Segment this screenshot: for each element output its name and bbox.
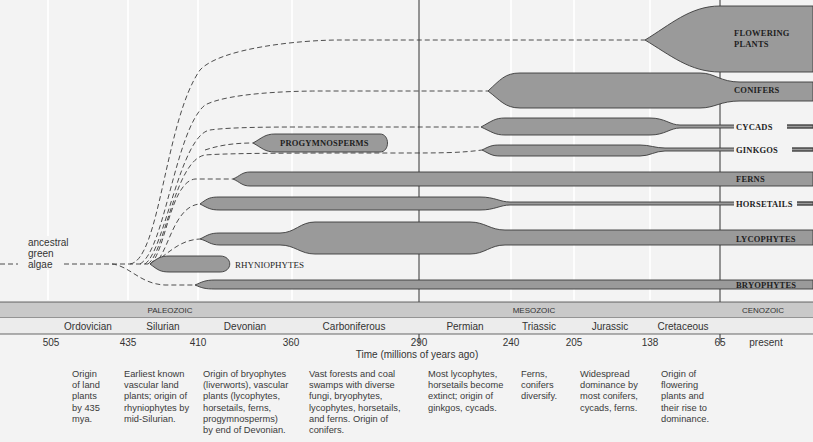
period-ordovician: Ordovician bbox=[64, 321, 112, 332]
desc-line: lycophytes, horsetails, bbox=[309, 403, 400, 414]
lineage-shapes bbox=[150, 6, 813, 289]
label-flowering-plants-1: FLOWERING bbox=[734, 28, 790, 38]
era-paleozoic: PALEOZOIC bbox=[147, 306, 192, 315]
lineage-flowering-plants bbox=[645, 6, 813, 72]
desc-line: plants (lycophytes, bbox=[203, 391, 288, 402]
tick-360: 360 bbox=[283, 337, 300, 348]
desc-line: Origin of bryophytes bbox=[203, 369, 288, 380]
desc-line: of land bbox=[72, 380, 100, 391]
tick-290: 290 bbox=[411, 337, 428, 348]
desc-line: Origin of bbox=[661, 369, 709, 380]
description-devonian: Origin of bryophytes (liverworts), vascu… bbox=[203, 369, 288, 436]
tick-present: present bbox=[749, 337, 783, 348]
period-triassic: Triassic bbox=[522, 321, 556, 332]
desc-line: cycads, ferns. bbox=[580, 403, 638, 414]
description-origin-land-plants: Origin of land plants by 435 mya. bbox=[72, 369, 100, 425]
period-carboniferous: Carboniferous bbox=[323, 321, 386, 332]
period-permian: Permian bbox=[446, 321, 483, 332]
label-ferns: FERNS bbox=[736, 174, 765, 184]
tick-410: 410 bbox=[190, 337, 207, 348]
label-horsetails: HORSETAILS bbox=[736, 199, 793, 209]
lineage-rhyniophytes bbox=[150, 256, 230, 272]
desc-line: Most lycophytes, bbox=[428, 369, 503, 380]
label-rhyniophytes: RHYNIOPHYTES bbox=[235, 260, 304, 270]
axis-label: Time (millions of years ago) bbox=[356, 349, 478, 360]
desc-line: conifers bbox=[521, 380, 557, 391]
label-conifers: CONIFERS bbox=[734, 85, 780, 95]
label-lycophytes: LYCOPHYTES bbox=[736, 234, 796, 244]
desc-line: flowering bbox=[661, 380, 709, 391]
era-band: PALEOZOIC MESOZOIC CENOZOIC bbox=[0, 302, 813, 318]
description-cretaceous: Origin of flowering plants and their ris… bbox=[661, 369, 709, 425]
desc-line: plants and bbox=[661, 391, 709, 402]
description-carboniferous: Vast forests and coal swamps with divers… bbox=[309, 369, 400, 436]
ancestor-label-2: green bbox=[28, 248, 54, 259]
desc-line: horsetails become bbox=[428, 380, 503, 391]
desc-line: dominance. bbox=[661, 414, 709, 425]
label-progymnosperms: PROGYMNOSPERMS bbox=[280, 138, 369, 148]
era-cenozoic: CENOZOIC bbox=[742, 306, 784, 315]
desc-line: their rise to bbox=[661, 403, 709, 414]
desc-line: Earliest known bbox=[124, 369, 189, 380]
desc-line: progymnosperms) bbox=[203, 414, 288, 425]
lineage-bryophytes bbox=[195, 280, 813, 289]
desc-line: conifers. bbox=[309, 425, 400, 436]
description-jurassic: Widespread dominance by most conifers, c… bbox=[580, 369, 638, 414]
desc-line: by end of Devonian. bbox=[203, 425, 288, 436]
desc-line: most conifers, bbox=[580, 391, 638, 402]
period-cretaceous: Cretaceous bbox=[657, 321, 708, 332]
label-extension-lines bbox=[787, 125, 813, 205]
desc-line: Vast forests and coal bbox=[309, 369, 400, 380]
desc-line: Ferns, bbox=[521, 369, 557, 380]
desc-line: extinct; origin of bbox=[428, 391, 503, 402]
desc-line: Origin bbox=[72, 369, 100, 380]
label-flowering-plants-2: PLANTS bbox=[734, 39, 769, 49]
desc-line: (liverworts), vascular bbox=[203, 380, 288, 391]
label-cycads: CYCADS bbox=[736, 122, 773, 132]
lineage-horsetails bbox=[200, 197, 813, 210]
label-bryophytes: BRYOPHYTES bbox=[736, 280, 796, 290]
desc-line: vascular land bbox=[124, 380, 189, 391]
tick-65: 65 bbox=[714, 337, 726, 348]
desc-line: Widespread bbox=[580, 369, 638, 380]
tick-505: 505 bbox=[43, 337, 60, 348]
time-axis: 505 435 410 360 290 240 205 138 65 prese… bbox=[43, 337, 783, 360]
period-devonian: Devonian bbox=[224, 321, 266, 332]
desc-line: mya. bbox=[72, 414, 100, 425]
era-mesozoic: MESOZOIC bbox=[513, 306, 556, 315]
desc-line: horsetails, ferns, bbox=[203, 403, 288, 414]
desc-line: and ferns. Origin of bbox=[309, 414, 400, 425]
tick-205: 205 bbox=[566, 337, 583, 348]
period-jurassic: Jurassic bbox=[592, 321, 629, 332]
description-silurian: Earliest known vascular land plants; ori… bbox=[124, 369, 189, 425]
desc-line: rhyniophytes by bbox=[124, 403, 189, 414]
period-band: Ordovician Silurian Devonian Carbonifero… bbox=[0, 318, 813, 334]
description-permian: Most lycophytes, horsetails become extin… bbox=[428, 369, 503, 414]
ancestor-label-3: algae bbox=[28, 259, 53, 270]
desc-line: by 435 bbox=[72, 403, 100, 414]
desc-line: fungi, bryophytes, bbox=[309, 391, 400, 402]
desc-line: diversify. bbox=[521, 391, 557, 402]
ancestor-label-1: ancestral bbox=[28, 237, 69, 248]
period-silurian: Silurian bbox=[146, 321, 179, 332]
desc-line: swamps with diverse bbox=[309, 380, 400, 391]
tick-240: 240 bbox=[503, 337, 520, 348]
desc-line: plants; origin of bbox=[124, 391, 189, 402]
lineage-ferns bbox=[233, 172, 813, 186]
tick-435: 435 bbox=[120, 337, 137, 348]
desc-line: mid-Silurian. bbox=[124, 414, 189, 425]
label-ginkgos: GINKGOS bbox=[736, 145, 778, 155]
desc-line: plants bbox=[72, 391, 100, 402]
description-triassic: Ferns, conifers diversify. bbox=[521, 369, 557, 403]
tick-138: 138 bbox=[642, 337, 659, 348]
desc-line: ginkgos, cycads. bbox=[428, 403, 503, 414]
desc-line: dominance by bbox=[580, 380, 638, 391]
